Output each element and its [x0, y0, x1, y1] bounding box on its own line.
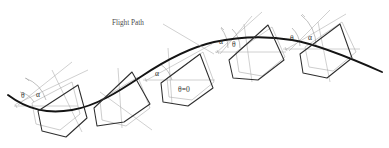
- alpha-label-1: α: [36, 90, 40, 99]
- flight-path-diagram: Flight Path θ α α θ=0 α θ θ α: [0, 0, 389, 148]
- diagram-canvas: Flight Path θ α α θ=0 α θ θ α: [0, 0, 389, 148]
- theta-label-1: θ: [21, 91, 25, 100]
- alpha-label-4: α: [219, 37, 223, 46]
- diagram-background: [0, 0, 389, 148]
- theta-label-5: θ: [290, 34, 294, 43]
- alpha-label-3: α: [155, 69, 159, 78]
- flight-path-label: Flight Path: [112, 19, 144, 27]
- theta-zero-label-3: θ=0: [178, 85, 190, 94]
- alpha-label-5: α: [308, 33, 312, 42]
- theta-label-4: θ: [232, 40, 236, 49]
